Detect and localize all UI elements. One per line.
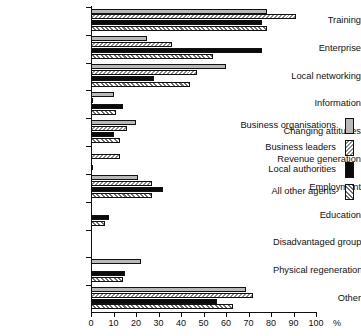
bar — [91, 54, 213, 59]
x-axis-tick — [204, 313, 205, 317]
category-label-education: Education — [273, 210, 361, 220]
category-label-training: Training — [273, 15, 361, 25]
y-axis-tick — [86, 63, 91, 64]
legend-item-all-other-agents: All other agents — [222, 184, 354, 201]
bar — [91, 76, 154, 81]
x-axis-tick — [114, 313, 115, 317]
x-axis-tick — [181, 313, 182, 317]
bar — [91, 70, 197, 75]
y-axis-tick — [86, 7, 91, 8]
y-axis-tick — [86, 285, 91, 286]
bar — [91, 154, 120, 159]
legend-label: Local authorities — [268, 164, 336, 175]
bar — [91, 293, 253, 298]
bar — [91, 287, 246, 292]
y-axis-tick — [86, 230, 91, 231]
bar — [91, 92, 114, 97]
x-axis-tick — [159, 313, 160, 317]
bar — [91, 26, 267, 31]
legend-swatch-icon — [345, 140, 354, 156]
bar — [91, 175, 138, 180]
bar — [91, 126, 127, 131]
horizontal-bar-chart: TrainingEnterpriseLocal networkingInform… — [0, 0, 361, 336]
bar — [91, 215, 109, 220]
bar — [91, 98, 93, 103]
legend-item-local-authorities: Local authorities — [222, 162, 354, 179]
x-axis-unit-label: % — [333, 318, 341, 328]
x-axis-tick — [249, 313, 250, 317]
x-axis-tick — [91, 313, 92, 317]
category-label-other: Other — [273, 293, 361, 303]
category-label-physical-regeneration: Physical regeneration — [273, 265, 361, 275]
x-axis-tick — [316, 313, 317, 317]
bar — [91, 277, 123, 282]
bar — [91, 36, 147, 41]
legend-swatch-icon — [345, 184, 354, 200]
bar — [91, 14, 296, 19]
x-axis-tick — [136, 313, 137, 317]
legend-swatch-icon — [345, 118, 354, 134]
bar — [91, 259, 141, 264]
bar — [91, 271, 125, 276]
bar — [91, 104, 123, 109]
legend-label: All other agents — [271, 186, 336, 197]
y-axis-tick — [86, 35, 91, 36]
category-label-disadvantaged-groups: Disadvantaged groups — [273, 237, 361, 247]
bar — [91, 82, 190, 87]
legend-label: Business organisations — [240, 120, 336, 131]
legend-swatch-icon — [345, 162, 354, 178]
y-axis-tick — [86, 90, 91, 91]
y-axis-tick — [86, 174, 91, 175]
bar — [91, 187, 163, 192]
bar — [91, 20, 262, 25]
bar — [91, 120, 136, 125]
bar — [91, 193, 152, 198]
legend-item-business-organisations: Business organisations — [222, 118, 354, 135]
legend-item-business-leaders: Business leaders — [222, 140, 354, 157]
category-label-enterprise: Enterprise — [273, 43, 361, 53]
bar — [91, 110, 116, 115]
category-label-local-networking: Local networking — [273, 71, 361, 81]
bar — [91, 48, 262, 53]
bar — [91, 304, 233, 309]
bar — [91, 221, 105, 226]
bar — [91, 42, 172, 47]
bar — [91, 165, 93, 170]
x-axis-tick — [294, 313, 295, 317]
y-axis-tick — [86, 257, 91, 258]
x-axis-tick — [226, 313, 227, 317]
bar — [91, 299, 217, 304]
y-axis-tick — [86, 202, 91, 203]
legend-label: Business leaders — [265, 142, 336, 153]
category-label-information: Information — [273, 98, 361, 108]
legend: Business organisations Business leaders … — [222, 118, 354, 206]
y-axis-tick — [86, 146, 91, 147]
bar — [91, 138, 120, 143]
bar — [91, 9, 267, 14]
x-axis-tick — [271, 313, 272, 317]
bar — [91, 64, 226, 69]
bar — [91, 132, 114, 137]
bar — [91, 181, 152, 186]
x-axis-tick-label: 100 — [301, 318, 331, 328]
y-axis-tick — [86, 118, 91, 119]
